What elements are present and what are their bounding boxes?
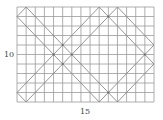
- intersection-dot: [62, 63, 64, 65]
- intersection-dot: [53, 54, 55, 56]
- height-label: 10: [4, 51, 14, 59]
- intersection-dot: [62, 44, 64, 46]
- intersection-dot: [107, 92, 109, 94]
- path-segment: [17, 7, 99, 93]
- width-label: 15: [80, 108, 90, 116]
- path-segment: [17, 93, 26, 103]
- billiard-grid-diagram: [0, 0, 163, 120]
- intersection-dot: [71, 54, 73, 56]
- path-segment: [17, 17, 99, 103]
- intersection-dot: [107, 16, 109, 18]
- path-segment: [17, 7, 26, 17]
- intersection-dot: [144, 54, 146, 56]
